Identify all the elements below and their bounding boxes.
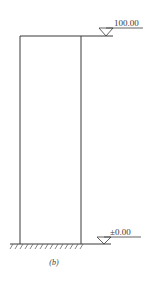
top-elevation-marker: 100.00: [99, 18, 143, 36]
ground: [10, 244, 111, 249]
elevation-triangle-icon: [99, 28, 113, 36]
building-elevation-diagram: 100.00 ±0.00 (b): [0, 0, 152, 285]
ground-hatch-icon: [10, 244, 83, 249]
top-elevation-label: 100.00: [114, 18, 139, 28]
bottom-elevation-marker: ±0.00: [97, 227, 141, 244]
building-outline: [20, 36, 113, 244]
bottom-elevation-label: ±0.00: [110, 227, 131, 237]
elevation-triangle-icon: [97, 237, 111, 244]
figure-caption: (b): [49, 258, 59, 267]
